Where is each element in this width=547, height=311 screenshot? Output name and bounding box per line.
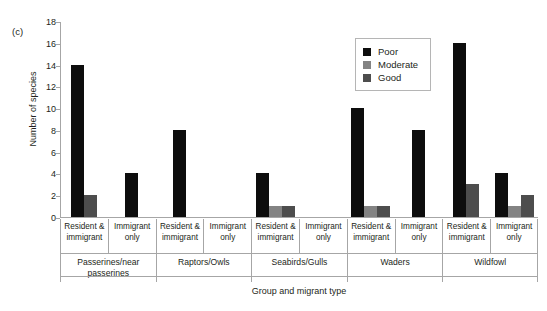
bar-good[interactable] — [282, 206, 295, 217]
bar-good[interactable] — [84, 195, 97, 217]
bar-stack — [156, 22, 204, 217]
bar-group — [299, 22, 347, 217]
legend-item-poor[interactable]: Poor — [363, 46, 418, 57]
category-label-line1: Immigrant — [396, 222, 443, 233]
category-label-line1: Resident & — [443, 222, 490, 233]
bar-stack — [490, 22, 538, 217]
category-label-line2: only — [396, 233, 443, 244]
legend-swatch-moderate — [363, 61, 371, 69]
category-label-line1: Immigrant — [300, 222, 347, 233]
category-label-line2: only — [300, 233, 347, 244]
x-axis-group-labels: Passerines/nearpasserinesRaptors/OwlsSea… — [60, 254, 538, 282]
bar-stack — [108, 22, 156, 217]
bar-stack — [442, 22, 490, 217]
category-label-line2: immigrant — [61, 233, 108, 244]
bar-poor[interactable] — [71, 65, 84, 217]
bar-moderate[interactable] — [269, 206, 282, 217]
x-axis-group-label: Passerines/nearpasserines — [60, 254, 156, 282]
y-axis-tick-label: 12 — [30, 83, 56, 92]
group-label-rule — [60, 276, 538, 277]
bar-moderate[interactable] — [364, 206, 377, 217]
bar-poor[interactable] — [173, 130, 186, 217]
y-axis-tick-labels: 024681012141618 — [30, 22, 56, 218]
x-axis-category-label: Immigrantonly — [490, 219, 538, 253]
group-label-line1: Passerines/near — [61, 257, 156, 268]
category-label-line2: only — [109, 233, 156, 244]
group-label-line1: Wildfowl — [443, 257, 537, 268]
category-label-line1: Resident & — [61, 222, 108, 233]
plot-area — [60, 22, 538, 218]
legend-label-poor: Poor — [378, 46, 398, 57]
x-axis-category-label: Immigrantonly — [108, 219, 156, 253]
x-axis-group-label: Wildfowl — [442, 254, 538, 282]
bar-stack — [60, 22, 108, 217]
x-axis-title: Group and migrant type — [60, 286, 538, 296]
x-axis-category-label: Resident &immigrant — [442, 219, 490, 253]
x-axis-category-label: Resident &immigrant — [60, 219, 108, 253]
category-label-line1: Resident & — [252, 222, 299, 233]
category-label-line1: Immigrant — [204, 222, 251, 233]
category-label-line2: immigrant — [252, 233, 299, 244]
y-axis-tick-label: 6 — [30, 148, 56, 157]
category-label-line2: immigrant — [348, 233, 395, 244]
x-axis-category-labels: Resident &immigrantImmigrantonlyResident… — [60, 219, 538, 253]
legend-label-moderate: Moderate — [378, 59, 418, 70]
bar-moderate[interactable] — [508, 206, 521, 217]
x-axis-line — [60, 217, 538, 218]
x-axis-group-label: Waders — [347, 254, 443, 282]
category-label-line1: Immigrant — [109, 222, 156, 233]
bar-poor[interactable] — [351, 108, 364, 217]
category-label-line2: only — [491, 233, 537, 244]
group-label-line1: Raptors/Owls — [157, 257, 252, 268]
category-label-line1: Resident & — [348, 222, 395, 233]
legend-swatch-poor — [363, 48, 371, 56]
category-label-line2: immigrant — [157, 233, 204, 244]
bar-poor[interactable] — [412, 130, 425, 217]
x-axis-category-label: Immigrantonly — [299, 219, 347, 253]
category-label-line2: immigrant — [443, 233, 490, 244]
y-axis-tick-label: 14 — [30, 61, 56, 70]
x-axis-group-label: Raptors/Owls — [156, 254, 252, 282]
legend-label-good: Good — [378, 72, 401, 83]
bar-group — [60, 22, 108, 217]
y-axis-tick-label: 0 — [30, 214, 56, 223]
bar-group — [203, 22, 251, 217]
bar-group — [442, 22, 490, 217]
bar-poor[interactable] — [495, 173, 508, 217]
y-axis-tick-label: 16 — [30, 39, 56, 48]
legend: PoorModerateGood — [355, 38, 431, 91]
bar-poor[interactable] — [256, 173, 269, 217]
x-axis-category-label: Immigrantonly — [395, 219, 443, 253]
y-axis-tick-label: 8 — [30, 126, 56, 135]
x-axis-group-label: Seabirds/Gulls — [251, 254, 347, 282]
bar-group — [251, 22, 299, 217]
legend-item-good[interactable]: Good — [363, 72, 418, 83]
y-axis-tick-label: 2 — [30, 192, 56, 201]
group-label-line1: Waders — [348, 257, 443, 268]
x-axis-category-label: Resident &immigrant — [251, 219, 299, 253]
bar-good[interactable] — [377, 206, 390, 217]
bar-group — [156, 22, 204, 217]
y-axis-tick-label: 18 — [30, 18, 56, 27]
bar-group — [490, 22, 538, 217]
bar-stack — [203, 22, 251, 217]
x-axis-category-label: Immigrantonly — [203, 219, 251, 253]
bar-poor[interactable] — [453, 43, 466, 217]
bar-group — [108, 22, 156, 217]
bar-poor[interactable] — [125, 173, 138, 217]
bar-stack — [251, 22, 299, 217]
group-label-line1: Seabirds/Gulls — [252, 257, 347, 268]
x-axis-category-label: Resident &immigrant — [347, 219, 395, 253]
bar-good[interactable] — [466, 184, 479, 217]
legend-item-moderate[interactable]: Moderate — [363, 59, 418, 70]
panel-label: (c) — [12, 26, 23, 37]
bar-stack — [299, 22, 347, 217]
legend-swatch-good — [363, 74, 371, 82]
category-label-line2: only — [204, 233, 251, 244]
category-label-line1: Resident & — [157, 222, 204, 233]
x-axis-category-label: Resident &immigrant — [156, 219, 204, 253]
y-axis-tick-label: 4 — [30, 170, 56, 179]
y-axis-tick-label: 10 — [30, 105, 56, 114]
bar-chart-figure: (c) Number of species 024681012141618 Po… — [0, 0, 547, 311]
bar-good[interactable] — [521, 195, 534, 217]
